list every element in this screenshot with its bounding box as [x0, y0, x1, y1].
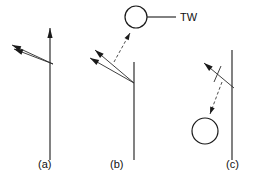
panel-c-label: (c): [226, 158, 239, 170]
panel-a-incident-ray-lower-arrowhead-icon: [14, 49, 23, 55]
panel-b-label: (b): [110, 158, 123, 170]
panel-b-reflected-ray-lower-arrowhead-icon: [90, 58, 99, 65]
panel-c-pointer-to-lower-circle-arrowhead-icon: [210, 107, 215, 114]
panel-b-pointer-to-tw-circle-arrowhead-icon: [125, 33, 130, 40]
panel-c-ray-tick: [214, 66, 221, 82]
panel-b: (b): [90, 6, 147, 170]
panel-a-vertical-arrowhead-icon: [47, 28, 52, 38]
panel-c: (c): [192, 50, 239, 170]
panel-b-tw-circle: [125, 6, 147, 28]
panel-a: (a): [12, 28, 53, 170]
diagram-svg: (a)(b)(c)TW: [0, 0, 258, 178]
tw-annotation-group: TW: [147, 11, 198, 23]
figure-canvas: (a)(b)(c)TW: [0, 0, 258, 178]
panel-c-lower-circle: [192, 118, 218, 144]
panel-a-label: (a): [38, 158, 51, 170]
tw-label: TW: [180, 11, 198, 23]
